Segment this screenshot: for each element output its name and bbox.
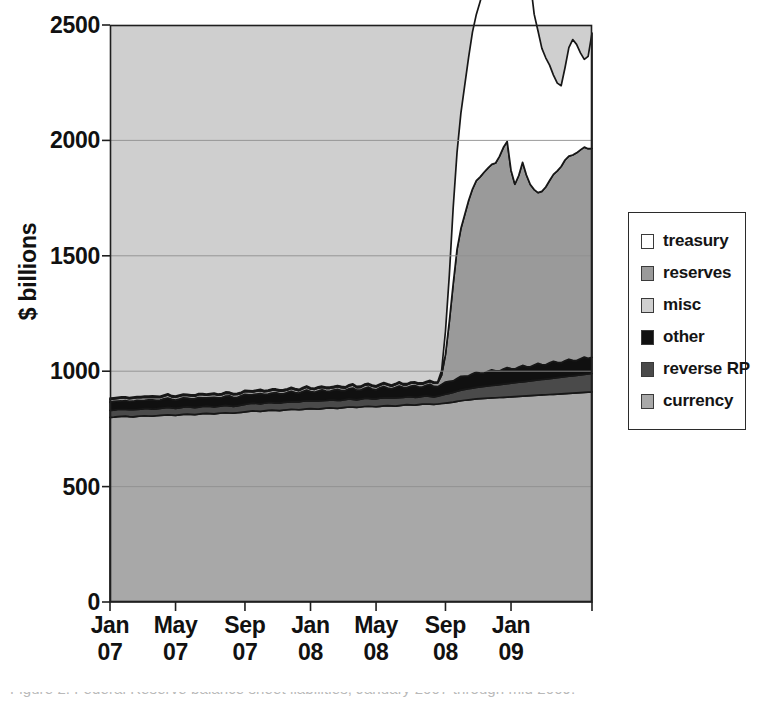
legend-swatch-misc <box>641 298 654 313</box>
legend-label-misc: misc <box>663 295 701 315</box>
legend-item-treasury[interactable]: treasury <box>629 225 745 257</box>
legend-item-misc[interactable]: misc <box>629 289 745 321</box>
x-tick-year: 09 <box>466 639 556 666</box>
x-tick-month: Jan <box>466 612 556 639</box>
legend-label-treasury: treasury <box>663 231 729 251</box>
legend-swatch-reverse-rp <box>641 362 654 377</box>
y-tick-label-1000: 1000 <box>22 360 100 383</box>
caption-fragment: Figure 2. Federal Reserve balance sheet … <box>0 692 762 703</box>
stacked-area-plot <box>110 25 592 602</box>
y-axis-tick-labels: 25002000150010005000 <box>14 0 100 640</box>
legend-item-other[interactable]: other <box>629 321 745 353</box>
legend-label-reverse-rp: reverse RP <box>663 359 750 379</box>
chart-figure: $ billions 25002000150010005000 Jan07May… <box>0 0 762 703</box>
legend-swatch-treasury <box>641 234 654 249</box>
x-tick-label-jan-09: Jan09 <box>466 612 556 665</box>
x-axis-tick-labels: Jan07May07Sep07Jan08May08Sep08Jan09 <box>0 612 762 692</box>
caption-fragment-text: Figure 2. Federal Reserve balance sheet … <box>10 692 752 697</box>
legend-label-other: other <box>663 327 705 347</box>
y-tick-label-2500: 2500 <box>22 14 100 37</box>
legend-swatch-other <box>641 330 654 345</box>
legend-swatch-reserves <box>641 266 654 281</box>
y-tick-label-1500: 1500 <box>22 245 100 268</box>
legend-label-currency: currency <box>663 391 733 411</box>
legend-item-currency[interactable]: currency <box>629 385 745 417</box>
legend-swatch-currency <box>641 394 654 409</box>
area-series-currency <box>110 392 592 602</box>
y-tick-label-2000: 2000 <box>22 129 100 152</box>
legend-label-reserves: reserves <box>663 263 731 283</box>
legend-item-reserves[interactable]: reserves <box>629 257 745 289</box>
legend-item-reverse-rp[interactable]: reverse RP <box>629 353 745 385</box>
y-tick-label-500: 500 <box>22 476 100 499</box>
plot-area <box>110 25 592 602</box>
y-tick-label-0: 0 <box>22 591 100 614</box>
legend: treasuryreservesmiscotherreverse RPcurre… <box>628 212 746 430</box>
